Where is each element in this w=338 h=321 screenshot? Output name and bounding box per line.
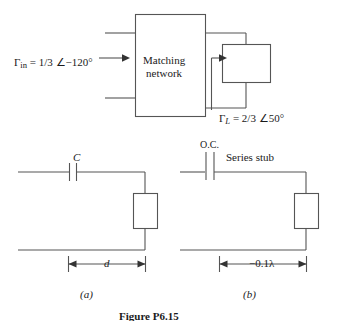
panel-a-dimension-arrowhead-left [69,261,77,268]
figure-p6-15: Γin = 1/3 ∠−120° ΓL = 2/3 ∠50° Matching … [0,0,338,321]
gamma-load-angle-icon: ∠ [259,112,269,124]
gamma-in-arrow-head [122,54,130,62]
panel-a-caption: (a) [80,289,93,300]
gamma-in-angle-icon: ∠ [56,56,66,68]
panel-a-capacitor-label: C [73,152,80,163]
matching-network-label-line2: network [146,68,182,79]
panel-b-dimension-arrowhead-left [220,261,228,268]
panel-b-caption: (b) [243,289,256,300]
panel-b-load-block [295,194,319,229]
gamma-in-equals: = 1/3 [27,56,56,68]
panel-b-dimension-label: −0.1λ [249,258,274,269]
gamma-load-label: ΓL = 2/3 ∠50° [219,113,284,125]
gamma-in-label: Γin = 1/3 ∠−120° [14,57,93,69]
gamma-load-value: 50° [269,112,284,124]
panel-b-series-stub-label: Series stub [226,152,274,163]
figure-linework [0,0,338,321]
panel-b-open-circuit-label: O.C. [200,140,219,150]
load-block [223,45,271,83]
panel-a-load-block [134,194,158,229]
panel-a-dimension-arrowhead-right [138,261,146,268]
gamma-load-equals: = 2/3 [230,112,259,124]
panel-a-dimension-label: d [104,258,110,269]
matching-network-label-line1: Matching [143,55,185,66]
figure-caption: Figure P6.15 [119,311,179,321]
gamma-in-value: −120° [66,56,93,68]
panel-b-dimension-arrowhead-right [299,261,307,268]
